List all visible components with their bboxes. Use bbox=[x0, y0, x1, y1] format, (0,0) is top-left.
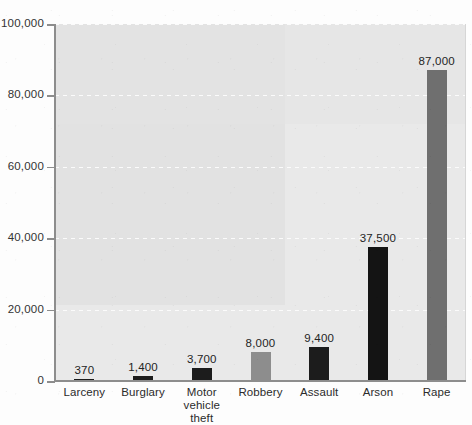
y-tick-mark-100000 bbox=[47, 24, 55, 26]
background-shading-band bbox=[55, 24, 466, 124]
category-label-burglary: Burglary bbox=[112, 386, 174, 399]
gridline-60000 bbox=[55, 167, 466, 168]
y-tick-mark-60000 bbox=[47, 167, 55, 169]
category-label-rape: Rape bbox=[406, 386, 468, 399]
category-label-robbery: Robbery bbox=[230, 386, 292, 399]
category-label-larceny: Larceny bbox=[53, 386, 115, 399]
bar-robbery bbox=[251, 352, 271, 381]
gridline-100000 bbox=[55, 24, 466, 25]
x-axis-line bbox=[54, 380, 466, 382]
plot-area bbox=[55, 24, 466, 381]
value-label-larceny: 370 bbox=[54, 364, 114, 376]
y-tick-mark-0 bbox=[47, 381, 55, 383]
gridline-80000 bbox=[55, 95, 466, 96]
category-label-assault: Assault bbox=[288, 386, 350, 399]
value-label-motor-vehicle-theft: 3,700 bbox=[172, 353, 232, 365]
bar-assault bbox=[309, 347, 329, 381]
y-tick-label-0: 0 bbox=[0, 374, 44, 386]
y-tick-label-40000: 40,000 bbox=[0, 231, 44, 243]
category-label-arson: Arson bbox=[347, 386, 409, 399]
bar-arson bbox=[368, 247, 388, 381]
y-tick-mark-40000 bbox=[47, 238, 55, 240]
value-label-assault: 9,400 bbox=[289, 332, 349, 344]
y-tick-label-20000: 20,000 bbox=[0, 303, 44, 315]
value-label-rape: 87,000 bbox=[407, 55, 467, 67]
y-tick-label-100000: 100,000 bbox=[0, 17, 44, 29]
y-tick-mark-80000 bbox=[47, 95, 55, 97]
value-label-arson: 37,500 bbox=[348, 232, 408, 244]
plot-right-edge bbox=[465, 24, 466, 381]
value-label-robbery: 8,000 bbox=[231, 337, 291, 349]
bar-rape bbox=[427, 70, 447, 381]
y-axis-line bbox=[54, 24, 56, 382]
category-label-motor-vehicle-theft: Motor vehicle theft bbox=[171, 386, 233, 425]
gridline-20000 bbox=[55, 310, 466, 311]
y-tick-label-80000: 80,000 bbox=[0, 88, 44, 100]
background-shading-block bbox=[55, 24, 285, 305]
value-label-burglary: 1,400 bbox=[113, 361, 173, 373]
y-tick-label-60000: 60,000 bbox=[0, 160, 44, 172]
y-tick-mark-20000 bbox=[47, 310, 55, 312]
